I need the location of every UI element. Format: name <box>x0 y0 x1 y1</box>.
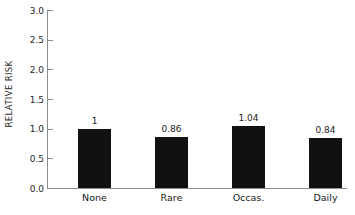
y-axis-tick-mark <box>48 158 53 159</box>
x-axis-category-label: Daily <box>309 192 342 203</box>
y-axis-tick-mark <box>48 188 53 189</box>
y-axis-tick-label: 3.0 <box>30 6 44 16</box>
y-axis-title: RELATIVE RISK <box>0 0 18 188</box>
plot-area: 0.00.51.01.52.02.53.0 10.861.040.84 None… <box>47 10 347 188</box>
y-axis-tick-label: 0.5 <box>30 154 44 164</box>
y-axis-tick-label: 2.5 <box>30 35 44 45</box>
bar: 0.84 <box>309 10 342 188</box>
y-axis-tick-mark <box>48 10 53 11</box>
x-axis-category-label: Rare <box>155 192 188 203</box>
x-axis-line <box>47 188 347 189</box>
y-axis-tick-label: 1.0 <box>30 124 44 134</box>
y-axis-tick-label: 2.0 <box>30 65 44 75</box>
bar-rect <box>232 126 265 188</box>
bar-value-label: 0.86 <box>161 124 181 134</box>
bar: 1 <box>78 10 111 188</box>
y-axis-tick-mark <box>48 40 53 41</box>
bar-rect <box>78 129 111 188</box>
y-axis-title-label: RELATIVE RISK <box>4 61 14 128</box>
bar: 1.04 <box>232 10 265 188</box>
x-axis-category-label: Occas. <box>232 192 265 203</box>
bar-value-label: 0.84 <box>315 125 335 135</box>
y-axis-tick-mark <box>48 99 53 100</box>
bar-value-label: 1.04 <box>238 113 258 123</box>
bar-rect <box>309 138 342 188</box>
y-axis-tick-mark <box>48 69 53 70</box>
y-axis-tick-mark <box>48 129 53 130</box>
bar-chart: RELATIVE RISK 0.00.51.01.52.02.53.0 10.8… <box>0 0 355 215</box>
bar-value-label: 1 <box>92 116 98 126</box>
bar: 0.86 <box>155 10 188 188</box>
bar-rect <box>155 137 188 188</box>
x-axis-category-label: None <box>78 192 111 203</box>
y-axis-tick-label: 1.5 <box>30 95 44 105</box>
y-axis-tick-label: 0.0 <box>30 184 44 194</box>
